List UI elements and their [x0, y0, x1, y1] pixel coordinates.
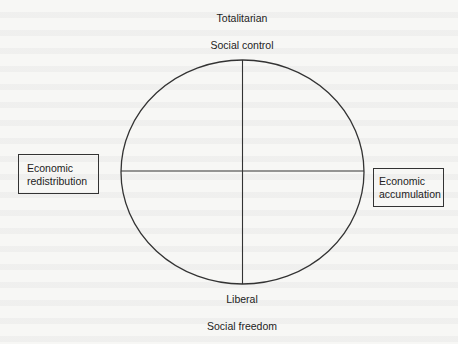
box-left-line1: Economic — [27, 162, 98, 175]
economic-accumulation-box: Economic accumulation — [373, 168, 444, 207]
box-right-line1: Economic — [379, 175, 443, 188]
box-left-line2: redistribution — [27, 175, 98, 188]
label-liberal: Liberal — [226, 293, 258, 305]
label-social-freedom: Social freedom — [207, 320, 277, 332]
box-right-line2: accumulation — [379, 188, 443, 201]
economic-redistribution-box: Economic redistribution — [18, 154, 99, 194]
